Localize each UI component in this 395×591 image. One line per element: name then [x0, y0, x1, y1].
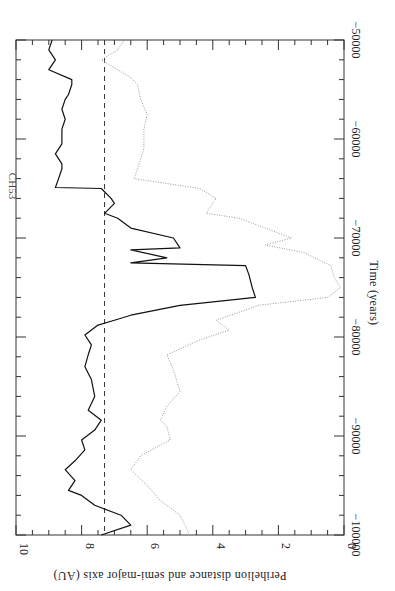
perihelion-distance-line: [101, 40, 340, 535]
plot-frame: [16, 40, 344, 535]
value-tick-label: 4: [214, 543, 228, 549]
time-tick-label: −90000: [349, 418, 363, 455]
object-id-label: CH53: [7, 173, 19, 200]
chart: 0246810−100000−90000−80000−70000−60000−5…: [0, 0, 395, 591]
value-tick-label: 10: [17, 543, 31, 555]
axis-ticks: [16, 40, 344, 535]
value-tick-label: 8: [83, 543, 97, 549]
time-tick-label: −80000: [349, 319, 363, 356]
value-tick-label: 2: [279, 543, 293, 549]
time-tick-label: −50000: [349, 22, 363, 59]
x-axis-title: Time (years): [367, 261, 381, 326]
semi-major-axis-line: [49, 40, 256, 535]
time-tick-label: −100000: [349, 514, 363, 557]
y-axis-title: Perihelion distance and semi-major axis …: [53, 569, 286, 583]
axis-tick-labels: 0246810−100000−90000−80000−70000−60000−5…: [17, 22, 363, 557]
value-tick-label: 6: [148, 543, 162, 549]
time-tick-label: −70000: [349, 220, 363, 257]
time-tick-label: −60000: [349, 121, 363, 158]
